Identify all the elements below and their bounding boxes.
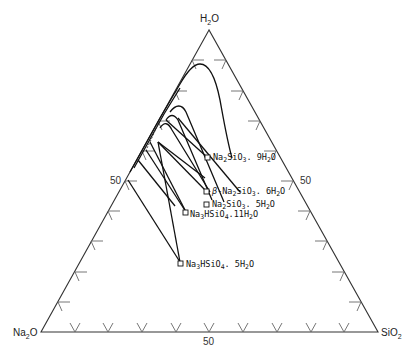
label-na3hsio4-11h2o: Na3HSiO4.11H2O — [190, 209, 258, 221]
label-na2sio3-9h2o: Na2SiO3. 9H2O — [213, 152, 276, 164]
ternary-diagram: Na2SiO3. 9H2O β-Na2SiO3. 6H2O Na2SiO3. 5… — [0, 0, 412, 353]
vertex-label-sio2: SiO2 — [381, 327, 402, 340]
label-na3hsio4-5h2o: Na3HSiO4. 5H2O — [186, 259, 254, 271]
marker-na2sio3-9h2o — [205, 155, 210, 160]
triangle-frame — [41, 30, 378, 332]
marker-na3hsio4-11h2o — [183, 210, 188, 215]
left-edge-50-label: 50 — [110, 175, 122, 186]
marker-beta-na2sio3-6h2o — [204, 189, 209, 194]
vertex-label-h2o: H2O — [200, 13, 219, 26]
bottom-edge-50-label: 50 — [203, 336, 215, 347]
vertex-label-na2o: Na2O — [13, 327, 38, 340]
phase-labels: Na2SiO3. 9H2O β-Na2SiO3. 6H2O Na2SiO3. 5… — [186, 152, 285, 271]
vertex-labels: H2O Na2O SiO2 — [13, 13, 402, 340]
marker-na2sio3-5h2o — [204, 202, 209, 207]
bottom-edge-ticks — [70, 323, 349, 332]
right-edge-50-label: 50 — [300, 175, 312, 186]
marker-na3hsio4-5h2o — [178, 261, 183, 266]
triangle-outline — [41, 30, 378, 332]
